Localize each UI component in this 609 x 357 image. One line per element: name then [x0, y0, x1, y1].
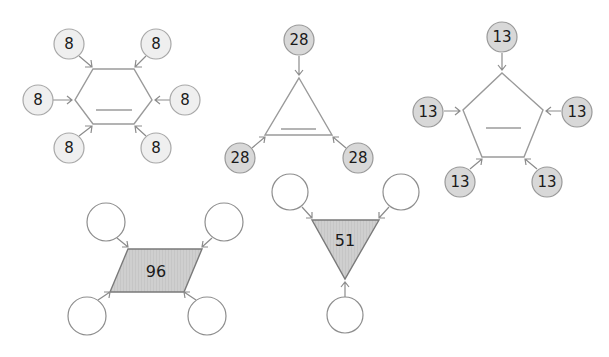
pentagon-outer-circle: 13 [413, 97, 443, 127]
svg-text:8: 8 [151, 35, 161, 53]
inverted-triangle-empty-circle[interactable] [327, 297, 363, 333]
hexagon-outer-circle: 8 [54, 133, 84, 163]
parallelogram-empty-circle[interactable] [87, 203, 125, 241]
puzzle-diagram: 8 8 8 8 8 8 [0, 0, 609, 357]
svg-text:13: 13 [418, 103, 437, 121]
triangle-outer-circle: 28 [225, 143, 255, 173]
parallelogram-puzzle: 96 [68, 203, 243, 335]
svg-text:28: 28 [230, 149, 249, 167]
hexagon-outer-circle: 8 [141, 29, 171, 59]
hexagon-puzzle: 8 8 8 8 8 8 [23, 29, 200, 163]
parallelogram-empty-circle[interactable] [68, 297, 106, 335]
svg-text:28: 28 [289, 31, 308, 49]
parallelogram-empty-circle[interactable] [205, 203, 243, 241]
pentagon-outer-circle: 13 [532, 167, 562, 197]
svg-text:8: 8 [64, 139, 74, 157]
svg-text:13: 13 [492, 28, 511, 46]
triangle-puzzle: 28 28 28 [225, 25, 373, 173]
svg-text:8: 8 [151, 139, 161, 157]
inverted-triangle-empty-circle[interactable] [272, 174, 308, 210]
svg-text:13: 13 [567, 103, 586, 121]
inverted-triangle-shape [312, 220, 379, 279]
pentagon-outer-circle: 13 [487, 22, 517, 52]
inverted-triangle-puzzle: 51 [272, 174, 419, 333]
pentagon-arrows [444, 53, 561, 169]
triangle-outer-circle: 28 [284, 25, 314, 55]
inverted-triangle-empty-circle[interactable] [383, 174, 419, 210]
pentagon-puzzle: 13 13 13 13 13 [413, 22, 592, 197]
svg-text:13: 13 [537, 173, 556, 191]
svg-text:13: 13 [450, 173, 469, 191]
hexagon-shape [75, 69, 152, 124]
svg-text:28: 28 [348, 149, 367, 167]
svg-text:8: 8 [33, 91, 43, 109]
inverted-triangle-center-value: 51 [335, 231, 355, 250]
parallelogram-center-value: 96 [146, 262, 166, 281]
triangle-outer-circle: 28 [343, 143, 373, 173]
hexagon-outer-circle: 8 [141, 133, 171, 163]
pentagon-outer-circle: 13 [445, 167, 475, 197]
svg-text:8: 8 [180, 91, 190, 109]
hexagon-outer-circle: 8 [170, 85, 200, 115]
parallelogram-empty-circle[interactable] [188, 297, 226, 335]
hexagon-outer-circle: 8 [54, 29, 84, 59]
triangle-shape [265, 78, 332, 135]
pentagon-shape [463, 73, 543, 157]
pentagon-outer-circle: 13 [562, 97, 592, 127]
hexagon-outer-circle: 8 [23, 85, 53, 115]
svg-text:8: 8 [64, 35, 74, 53]
